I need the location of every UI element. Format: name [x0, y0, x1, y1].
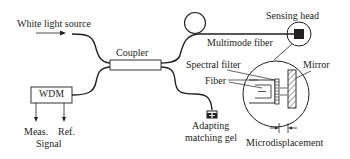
wdm-label: WDM [39, 89, 64, 100]
fiber-loop-icon [185, 13, 206, 34]
coupler-icon [110, 60, 161, 70]
fiber-end-icon [249, 80, 275, 103]
spectral-filter-icon [275, 79, 279, 104]
source-fiber [72, 34, 110, 63]
signal-label: Signal [36, 138, 62, 149]
coupler-label: Coupler [116, 47, 148, 58]
multimode-fiber-label: Multimode fiber [207, 37, 273, 48]
microdisplacement-marker-icon [270, 123, 297, 133]
fiber-sensor-diagram: White light source Coupler Multimode fib… [0, 0, 350, 159]
wdm-fiber [72, 67, 110, 95]
gel-fiber [161, 67, 212, 110]
mirror-label: Mirror [303, 59, 330, 70]
gel-label-line2: matching gel [185, 132, 237, 143]
matching-gel-icon [207, 111, 217, 118]
meas-arrow-icon [34, 103, 38, 122]
mirror-icon [288, 70, 296, 108]
microdisplacement-label: Microdisplacement [246, 137, 323, 148]
sensing-head-icon [294, 29, 304, 39]
ref-label: Ref. [58, 126, 75, 137]
source-arrow-icon [36, 31, 66, 36]
meas-label: Meas. [24, 126, 48, 137]
ref-arrow-icon [62, 103, 66, 122]
fiber-label: Fiber [205, 75, 226, 86]
gel-label-line1: Adapting [192, 120, 229, 131]
white-light-source-label: White light source [17, 18, 91, 29]
spectral-filter-label: Spectral filter [186, 59, 241, 70]
sensing-head-label: Sensing head [266, 10, 319, 21]
